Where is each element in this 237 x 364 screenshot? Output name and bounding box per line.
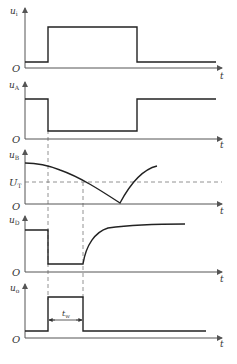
- panel-uo: uo O t tw: [10, 283, 224, 349]
- t-axis-label: t: [220, 274, 224, 284]
- label-UT: UT: [9, 177, 21, 189]
- label-uB: uB: [9, 150, 20, 161]
- waveform-uA: [25, 99, 216, 131]
- t-axis-label: t: [220, 206, 224, 216]
- label-uA: uA: [9, 80, 20, 91]
- origin-label: O: [12, 267, 20, 278]
- waveform-ui: [25, 27, 216, 62]
- timing-diagram: ui O t uA O t uB UT O t uD O t uo O: [0, 0, 237, 364]
- label-uD: uD: [9, 215, 20, 226]
- origin-label: O: [12, 334, 20, 345]
- panel-uD: uD O t: [9, 215, 224, 284]
- waveform-uo: [25, 297, 206, 331]
- panel-uB: uB UT O t: [9, 150, 224, 216]
- t-axis-label: t: [220, 339, 224, 349]
- waveform-uD: [25, 224, 185, 264]
- origin-label: O: [12, 134, 20, 145]
- label-tw: tw: [62, 309, 70, 319]
- label-ui: ui: [10, 6, 18, 17]
- waveform-uB: [25, 163, 157, 203]
- panel-uA: uA O t: [9, 80, 224, 150]
- t-axis-label: t: [220, 140, 224, 150]
- t-axis-label: t: [220, 71, 224, 81]
- panel-ui: ui O t: [10, 6, 224, 81]
- origin-label: O: [12, 201, 20, 212]
- label-uo: uo: [10, 283, 20, 294]
- origin-label: O: [12, 63, 20, 74]
